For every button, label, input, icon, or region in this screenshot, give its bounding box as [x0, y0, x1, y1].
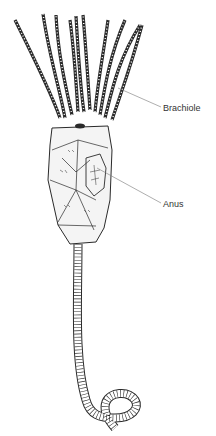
- anus-label: Anus: [163, 199, 184, 209]
- brachiole-leader-line: [118, 88, 161, 107]
- brachiole-label: Brachiole: [163, 103, 201, 113]
- stem: [77, 244, 136, 428]
- theca: [48, 124, 112, 245]
- brachioles: [15, 14, 142, 120]
- cystoid-illustration: [0, 0, 216, 436]
